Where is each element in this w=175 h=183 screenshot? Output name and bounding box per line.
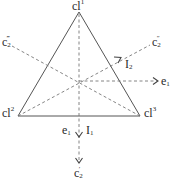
vertex-label-cl1: cl1 xyxy=(72,0,84,12)
arrow-e1-icon xyxy=(153,78,158,85)
axis-label-c2-prime: c2′ xyxy=(74,167,80,179)
axis-label-c2-triple: c2‴ xyxy=(2,36,10,48)
axis-label-I1: I1 xyxy=(86,124,94,136)
vertex-label-cl2: cl2 xyxy=(2,107,14,119)
arrow-I1-icon xyxy=(76,132,83,137)
vertex-label-cl3: cl3 xyxy=(144,107,156,119)
arrow-I2-icon xyxy=(114,57,121,63)
axis-label-e1-bottom: e1 xyxy=(62,124,71,136)
axis-c2-double xyxy=(18,45,150,116)
symmetry-diagram xyxy=(0,0,175,183)
axis-label-e1-right: e1 xyxy=(161,75,170,87)
axis-label-I2: I2 xyxy=(125,58,133,70)
axis-c2-triple xyxy=(12,46,140,116)
axis-label-c2-double: c2″ xyxy=(152,36,160,48)
edge-cl1-cl2 xyxy=(18,12,79,116)
